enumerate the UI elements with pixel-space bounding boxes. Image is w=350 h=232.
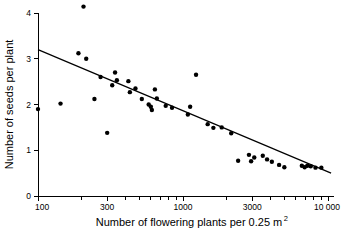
x-tick-label-100: 100	[35, 202, 49, 212]
x-tick-label-300: 300	[100, 202, 114, 212]
y-tick-label-1: 1	[26, 145, 31, 155]
data-point	[98, 75, 102, 79]
data-point	[84, 57, 88, 61]
data-point	[170, 106, 174, 110]
data-point	[252, 155, 256, 159]
data-point	[277, 163, 281, 167]
data-point	[92, 97, 96, 101]
data-point	[229, 131, 233, 135]
x-axis-title: Number of flowering plants per 0.25 m2	[96, 214, 288, 228]
data-point	[220, 125, 224, 129]
x-tick-label-1000: 1000	[174, 202, 193, 212]
data-point	[211, 126, 215, 130]
data-point	[282, 165, 286, 169]
data-point	[194, 73, 198, 77]
data-point	[126, 79, 130, 83]
data-point	[188, 105, 192, 109]
data-point	[153, 87, 157, 91]
data-point	[140, 97, 144, 101]
data-point	[186, 112, 190, 116]
data-point	[261, 154, 265, 158]
data-points	[36, 4, 324, 169]
axis-lines	[38, 13, 334, 196]
data-point	[113, 70, 117, 74]
data-point	[105, 131, 109, 135]
fit-line	[38, 50, 331, 174]
scatter-plot-figure: 1003001000300010 000 01234 Number of flo…	[0, 0, 350, 232]
axes	[38, 13, 334, 196]
y-axis-title: Number of seeds per plant	[3, 40, 15, 170]
x-tick-label-3000: 3000	[243, 202, 262, 212]
data-point	[58, 101, 62, 105]
y-tick-labels: 01234	[26, 8, 31, 201]
data-point	[205, 122, 209, 126]
y-tick-label-3: 3	[26, 54, 31, 64]
data-point	[81, 4, 85, 8]
plot-canvas: 1003001000300010 000 01234 Number of flo…	[0, 0, 350, 232]
data-point	[236, 159, 240, 163]
data-point	[133, 86, 137, 90]
x-axis-title-text: Number of flowering plants per 0.25 m	[96, 216, 282, 228]
data-point	[155, 96, 159, 100]
data-point	[309, 164, 313, 168]
tick-marks	[34, 13, 328, 201]
y-tick-label-0: 0	[26, 191, 31, 201]
data-point	[313, 165, 317, 169]
data-point	[249, 159, 253, 163]
y-tick-label-2: 2	[26, 100, 31, 110]
x-tick-labels: 1003001000300010 000	[35, 202, 340, 212]
x-axis-title-superscript: 2	[284, 214, 288, 223]
regression-line	[38, 50, 331, 174]
data-point	[110, 83, 114, 87]
data-point	[319, 165, 323, 169]
data-point	[150, 108, 154, 112]
data-point	[265, 157, 269, 161]
data-point	[164, 104, 168, 108]
data-point	[247, 153, 251, 157]
data-point	[36, 107, 40, 111]
data-point	[76, 51, 80, 55]
data-point	[270, 159, 274, 163]
y-axis-title-text: Number of seeds per plant	[3, 40, 15, 170]
y-tick-label-4: 4	[26, 8, 31, 18]
data-point	[115, 78, 119, 82]
x-tick-label-10000: 10 000	[314, 202, 340, 212]
data-point	[128, 90, 132, 94]
